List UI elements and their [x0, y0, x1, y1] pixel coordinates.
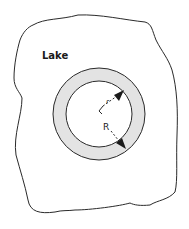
- lake-diagram: Lake r R: [0, 0, 189, 229]
- outer-radius-label: R: [103, 122, 109, 132]
- lake-label: Lake: [42, 50, 69, 61]
- ring-inner-circle: [66, 81, 132, 147]
